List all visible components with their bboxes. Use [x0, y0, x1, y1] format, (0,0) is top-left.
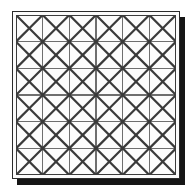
figure-root: Square lattice with full diagonals A squ…: [0, 0, 190, 190]
figure-description: A square panel containing a 6 by 6 grid …: [0, 0, 1, 1]
figure-title: Square lattice with full diagonals: [0, 0, 1, 1]
lattice-diagram: [16, 15, 176, 175]
lattice-plot-area: [16, 15, 176, 175]
diagram-panel: [12, 11, 180, 179]
